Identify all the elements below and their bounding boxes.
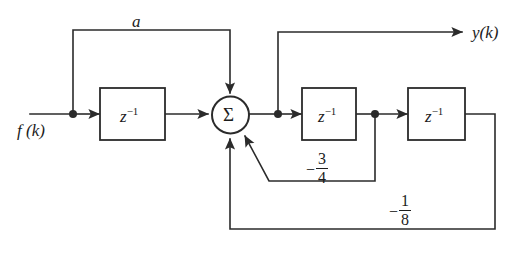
delay-block-1-label: z−1 (120, 106, 138, 125)
delay-block-1-exponent: −1 (127, 105, 139, 117)
delay-block-3-label: z−1 (425, 106, 443, 125)
gain-one-eighth-sign: − (389, 204, 399, 220)
gain-label-three-quarters: −34 (306, 152, 328, 187)
block-diagram-canvas: f (k) y(k) a Σ z−1 z−1 z−1 −34 −18 (0, 0, 521, 263)
gain-label-one-eighth: −18 (389, 194, 411, 229)
gain-one-eighth-denominator: 8 (399, 210, 411, 228)
output-signal-label: y(k) (472, 24, 498, 41)
gain-label-a: a (132, 13, 141, 30)
gain-one-eighth-fraction: 18 (399, 193, 411, 228)
gain-three-quarters-numerator: 3 (316, 151, 328, 168)
summing-junction-sigma: Σ (223, 105, 234, 124)
delay-block-3-base: z (425, 107, 432, 126)
gain-three-quarters-denominator: 4 (316, 168, 328, 186)
gain-one-eighth-numerator: 1 (399, 193, 411, 210)
delay-block-2-label: z−1 (318, 106, 336, 125)
delay-block-3-exponent: −1 (432, 105, 444, 117)
delay-block-1-base: z (120, 107, 127, 126)
gain-three-quarters-sign: − (306, 162, 316, 178)
input-signal-label: f (k) (17, 122, 45, 139)
gain-three-quarters-fraction: 34 (316, 151, 328, 186)
block-diagram-wiring (0, 0, 521, 263)
delay-block-2-exponent: −1 (325, 105, 337, 117)
delay-block-2-base: z (318, 107, 325, 126)
